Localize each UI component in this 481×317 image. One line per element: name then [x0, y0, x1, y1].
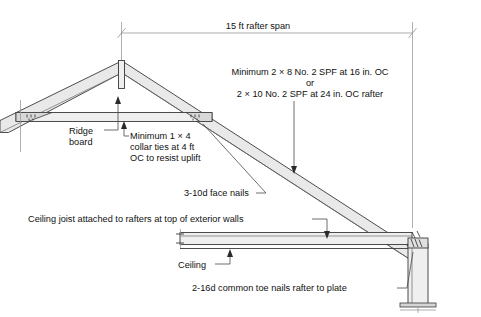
ridge-board-arrowhead — [115, 96, 121, 104]
exterior-wall-body — [408, 244, 428, 304]
callout-toe-nails: 2-16d common toe nails rafter to plate — [192, 252, 413, 293]
ridge-board — [119, 61, 125, 89]
span-dimension-label: 15 ft rafter span — [226, 21, 290, 31]
ceiling-arrowhead — [227, 249, 233, 257]
rafter-framing-diagram: 15 ft rafter span — [0, 0, 481, 317]
ceiling-label: Ceiling — [178, 260, 206, 270]
collar-tie-label-line-1: Minimum 1 × 4 — [130, 131, 191, 141]
callout-collar-tie: Minimum 1 × 4 collar ties at 4 ft OC to … — [121, 121, 201, 163]
ceiling-joist-body — [180, 233, 412, 245]
toe-nails-label: 2-16d common toe nails rafter to plate — [192, 283, 347, 293]
ceiling-leader — [215, 256, 230, 264]
collar-tie-label-line-2: collar ties at 4 ft — [130, 142, 195, 152]
ceiling-joist-label: Ceiling joist attached to rafters at top… — [28, 214, 244, 224]
rafter-spec-line-1: Minimum 2 × 8 No. 2 SPF at 16 in. OC — [231, 67, 388, 77]
ridge-board-body — [119, 61, 125, 89]
span-dimension-group: 15 ft rafter span — [118, 18, 417, 228]
ceiling-joist-leader — [312, 219, 327, 231]
diagram-canvas: 15 ft rafter span — [0, 0, 481, 317]
collar-tie-label-line-3: OC to resist uplift — [130, 153, 201, 163]
ridge-board-label-line-2: board — [69, 137, 93, 147]
wall-base-plate — [400, 303, 436, 307]
left-rafter-body — [0, 63, 119, 133]
left-rafter — [0, 63, 119, 133]
collar-tie — [16, 113, 212, 122]
collar-tie-arrowhead — [121, 121, 127, 129]
face-nails-label: 3-10d face nails — [184, 188, 249, 198]
left-rafter-lower-edge — [0, 75, 119, 133]
rafter-spec-line-2: or — [306, 78, 314, 88]
ridge-board-label-line-1: Ridge — [69, 126, 93, 136]
rafter-spec-line-3: 2 × 10 No. 2 SPF at 24 in. OC rafter — [237, 89, 383, 99]
callout-ceiling: Ceiling — [178, 249, 233, 270]
